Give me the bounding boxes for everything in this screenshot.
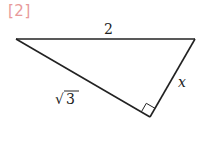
side-label-top: 2	[104, 21, 113, 37]
right-triangle-diagram: 2 x √ 3	[0, 0, 202, 149]
side-label-right: x	[178, 74, 186, 90]
sqrt-symbol: √	[55, 91, 64, 107]
sqrt-radicand: 3	[66, 91, 75, 107]
triangle	[16, 39, 195, 117]
side-left	[16, 39, 150, 117]
side-label-left: √ 3	[55, 91, 79, 107]
side-right	[150, 39, 195, 117]
